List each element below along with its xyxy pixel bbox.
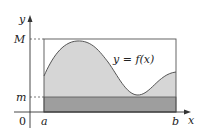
y-axis-arrow-icon <box>28 15 33 22</box>
a-label: a <box>41 115 48 128</box>
origin-label: 0 <box>19 115 26 128</box>
curve-label: y = f(x) <box>112 53 154 66</box>
lower-bound-label: m <box>16 91 26 104</box>
integral-bounds-diagram: y x M m 0 a b y = f(x) <box>0 0 206 138</box>
x-axis-label: x <box>188 114 195 127</box>
y-axis-label: y <box>18 13 26 26</box>
b-label: b <box>172 115 179 128</box>
lower-bound-rectangle <box>44 97 176 112</box>
upper-bound-label: M <box>13 33 26 46</box>
